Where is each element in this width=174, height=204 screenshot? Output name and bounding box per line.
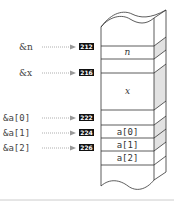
address-badge-224: 224 (79, 129, 94, 136)
address-badge-222: 222 (79, 114, 94, 121)
memory-diagram: &n &x &a[0] &a[1] &a[2] 212 216 222 224 … (0, 0, 174, 204)
pointer-label-a0: &a[0] (3, 113, 30, 123)
cell-a1: a[1] (101, 140, 154, 150)
cell-n: n (101, 47, 154, 57)
pointer-label-a1: &a[1] (3, 128, 30, 138)
pointer-label-x: &x (19, 68, 32, 78)
memory-column-graphic (0, 0, 174, 204)
cell-x: x (101, 86, 154, 96)
pointer-label-n: &n (19, 42, 33, 52)
address-badge-212: 212 (79, 43, 94, 50)
address-badge-226: 226 (79, 144, 94, 151)
address-badge-216: 216 (79, 69, 94, 76)
cell-a0: a[0] (101, 127, 154, 137)
pointer-arrows (42, 47, 70, 148)
arrow-heads (70, 45, 76, 151)
pointer-label-a2: &a[2] (3, 143, 30, 153)
cell-a2: a[2] (101, 153, 154, 163)
